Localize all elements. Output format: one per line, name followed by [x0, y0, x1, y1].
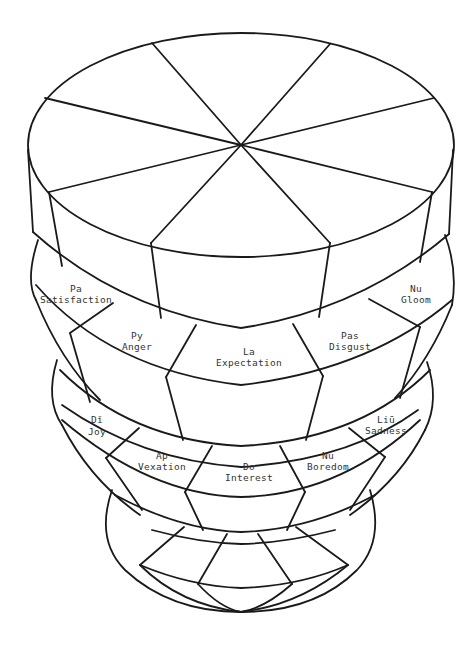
- label-gloom: Gloom: [401, 294, 431, 305]
- top-disk: [28, 33, 454, 328]
- label-sadness: Sadness: [365, 425, 407, 436]
- label-nu-boredom: Nu: [322, 450, 334, 461]
- label-pas: Pas: [341, 330, 359, 341]
- label-la: La: [243, 346, 255, 357]
- label-di: Dǐ: [91, 414, 103, 425]
- label-interest: Interest: [225, 472, 273, 483]
- label-ap: Ap: [156, 450, 168, 461]
- label-py: Py: [131, 330, 143, 341]
- label-nu-gloom: Nu: [410, 283, 422, 294]
- layered-emotion-wheel-diagram: Pa Satisfaction Py Anger La Expectation …: [0, 0, 475, 646]
- label-liu: Liū: [377, 414, 395, 425]
- label-anger: Anger: [122, 341, 152, 352]
- label-vexation: Vexation: [138, 461, 186, 472]
- label-boredom: Boredom: [307, 461, 349, 472]
- label-joy: Joy: [88, 426, 106, 437]
- label-disgust: Disgust: [329, 341, 371, 352]
- label-expectation: Expectation: [216, 357, 282, 368]
- label-satisfaction: Satisfaction: [40, 294, 112, 305]
- base-bowl: [106, 490, 375, 612]
- label-pa-satisfaction: Pa: [70, 283, 82, 294]
- top-disk-spokes: [45, 43, 434, 243]
- label-do: Do: [243, 461, 255, 472]
